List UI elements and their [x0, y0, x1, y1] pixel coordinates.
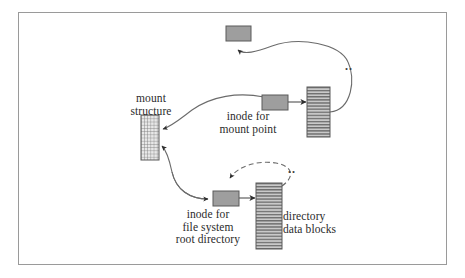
label-mount-structure: mount structure [108, 92, 194, 117]
mount-point-directory-block-box[interactable] [307, 87, 330, 137]
label-dotdot-top: .. [345, 60, 353, 72]
figure-root: mount structure inode for mount point in… [0, 0, 465, 278]
label-dotdot-bottom: .. [288, 163, 296, 175]
edge-rootblocks-to-root-inode-dotdot [230, 162, 291, 186]
label-inode-for-root-directory: inode for file system root directory [148, 208, 268, 246]
inode-for-mount-point-box[interactable] [262, 95, 288, 110]
mount-structure-box[interactable] [141, 115, 159, 160]
parent-inode-box[interactable] [226, 26, 251, 41]
edge-root-inode-to-mount-structure [162, 146, 208, 199]
label-inode-for-mount-point: inode for mount point [200, 110, 296, 135]
inode-for-root-directory-box[interactable] [213, 191, 239, 206]
label-directory-data-blocks: directory data blocks [283, 210, 369, 235]
